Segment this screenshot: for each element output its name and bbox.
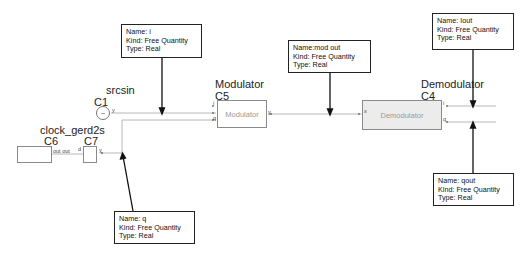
modulator-body-label: Modulator [225, 110, 258, 119]
modulator-name: Modulator [215, 78, 264, 90]
clock-c7-block[interactable] [83, 146, 97, 163]
demodulator-port-q: q [443, 116, 446, 122]
annotation-i-type: Type: Real [126, 45, 197, 54]
modulator-port-y: y [268, 109, 271, 115]
modulator-port-i: i [213, 100, 214, 106]
annotation-q-type: Type: Real [119, 232, 190, 241]
demodulator-block[interactable]: Demodulator [362, 100, 442, 130]
annotation-q[interactable]: Name: q Kind: Free Quantity Type: Real [114, 211, 195, 244]
srcsin-port-y: y [112, 107, 115, 113]
annotation-qout[interactable]: Name: qout Kind: Free Quantity Type: Rea… [433, 173, 514, 206]
clock-port-d: d [78, 146, 81, 152]
annotation-qout-type: Type: Real [438, 194, 509, 203]
annotation-mod-out-type: Type: Real [293, 61, 366, 70]
srcsin-name: srcsin [106, 84, 135, 96]
modulator-port-q: q [213, 115, 216, 121]
annotation-iout-type: Type: Real [437, 34, 509, 43]
annotation-i[interactable]: Name: i Kind: Free Quantity Type: Real [121, 24, 202, 58]
demodulator-port-x: x [364, 108, 367, 114]
clock-port-out: out out [53, 148, 70, 154]
demodulator-body-label: Demodulator [381, 111, 424, 120]
sine-wave-icon: ~ [101, 109, 106, 118]
srcsin-block[interactable]: ~ [96, 106, 110, 120]
clock-c6-block[interactable] [17, 146, 52, 163]
annotation-mod-out[interactable]: Name:mod out Kind: Free Quantity Type: R… [288, 40, 371, 73]
modulator-block[interactable]: Modulator [217, 100, 267, 128]
annotation-arrows [121, 50, 476, 211]
demodulator-name: Demodulator [421, 78, 484, 90]
demodulator-port-i: i [443, 100, 444, 106]
annotation-iout[interactable]: Name: Iout Kind: Free Quantity Type: Rea… [432, 13, 514, 50]
clock-port-y: y [99, 147, 102, 153]
